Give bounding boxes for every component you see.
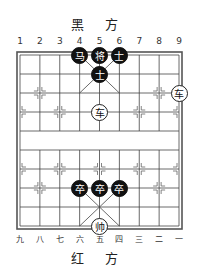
black-piece[interactable]: 士 xyxy=(91,66,108,83)
black-piece[interactable]: 卒 xyxy=(111,180,128,197)
red-piece[interactable]: 车 xyxy=(91,104,108,121)
black-piece[interactable]: 将 xyxy=(91,47,108,64)
black-piece[interactable]: 士 xyxy=(111,47,128,64)
black-piece[interactable]: 马 xyxy=(71,47,88,64)
red-piece[interactable]: 帅 xyxy=(91,218,108,235)
black-piece[interactable]: 卒 xyxy=(91,180,108,197)
black-piece[interactable]: 卒 xyxy=(71,180,88,197)
xiangqi-board xyxy=(0,0,197,276)
red-piece[interactable]: 车 xyxy=(171,85,188,102)
